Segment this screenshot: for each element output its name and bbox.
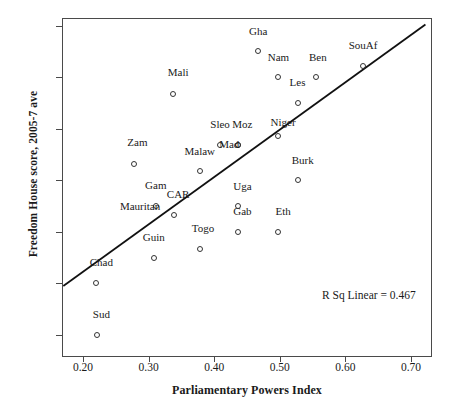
data-point-label: Les: [290, 77, 306, 88]
y-axis-title: Freedom House score, 2005-7 ave: [27, 49, 39, 299]
data-point-label: CAR: [167, 189, 190, 200]
x-tick-label: 0.60: [323, 362, 367, 374]
y-tick-mark: [56, 129, 62, 130]
data-point-label: Mali: [168, 67, 189, 78]
data-point-label: Togo: [192, 223, 214, 234]
data-point-marker: [197, 168, 203, 174]
data-point-label: Mauritan: [120, 201, 160, 212]
data-point-label: Gam: [145, 180, 166, 191]
data-point-label: Nam: [268, 52, 289, 63]
data-point-marker: [295, 100, 301, 106]
x-tick-mark: [280, 357, 281, 362]
data-point-marker: [151, 255, 157, 261]
scatter-plot-figure: Freedom House score, 2005-7 ave 7.006.00…: [0, 0, 450, 410]
x-tick-label: 0.20: [61, 362, 105, 374]
x-tick-label: 0.50: [258, 362, 302, 374]
data-point-label: Mad: [219, 139, 239, 150]
data-point-label: Ben: [309, 52, 327, 63]
data-point-label: Zam: [127, 137, 147, 148]
data-point-marker: [197, 246, 203, 252]
x-tick-mark: [149, 357, 150, 362]
x-tick-label: 0.40: [192, 362, 236, 374]
rsq-annotation: R Sq Linear = 0.467: [322, 289, 416, 301]
y-tick-mark: [56, 232, 62, 233]
data-point-label: Sleo: [210, 119, 230, 130]
data-point-label: Gab: [233, 206, 251, 217]
data-point-marker: [170, 91, 176, 97]
data-point-label: Uga: [233, 181, 251, 192]
x-tick-mark: [83, 357, 84, 362]
data-point-marker: [313, 74, 319, 80]
x-tick-mark: [411, 357, 412, 362]
y-tick-mark: [56, 335, 62, 336]
data-point-marker: [171, 212, 177, 218]
x-axis-title: Parliamentary Powers Index: [62, 383, 432, 398]
data-point-label: Niger: [271, 117, 296, 128]
x-tick-label: 0.70: [389, 362, 433, 374]
data-point-label: Malaw: [184, 146, 215, 157]
y-tick-mark: [56, 26, 62, 27]
data-point-label: Moz: [232, 119, 252, 130]
data-point-label: Burk: [292, 155, 314, 166]
data-point-marker: [131, 161, 137, 167]
data-point-label: Sud: [93, 309, 110, 320]
x-tick-label: 0.30: [127, 362, 171, 374]
data-point-label: Gha: [249, 26, 267, 37]
y-tick-mark: [56, 77, 62, 78]
data-point-label: Guin: [143, 232, 165, 243]
x-tick-mark: [345, 357, 346, 362]
y-tick-mark: [56, 283, 62, 284]
data-point-label: Chad: [90, 257, 113, 268]
data-point-label: SouAf: [349, 40, 378, 51]
y-tick-mark: [56, 180, 62, 181]
data-point-label: Eth: [275, 206, 290, 217]
x-tick-mark: [214, 357, 215, 362]
data-point-marker: [360, 63, 366, 69]
